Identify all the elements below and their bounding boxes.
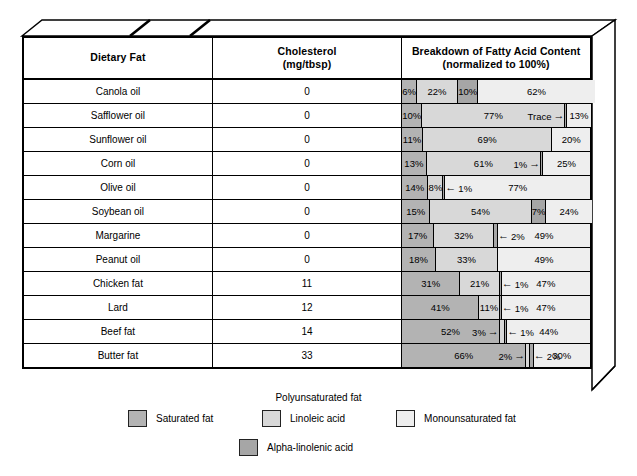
segment-value-label: 77% bbox=[508, 182, 527, 193]
table-row: Safflower oil010%77%Trace→13% bbox=[23, 104, 591, 128]
segment-value-label: 11% bbox=[480, 302, 498, 313]
column-header-dietary-fat: Dietary Fat bbox=[23, 37, 212, 79]
bar-segment-ala: 10% bbox=[458, 80, 478, 103]
fatty-acid-table: Dietary Fat Cholesterol (mg/tbsp) Breakd… bbox=[22, 36, 592, 369]
cell-dietary-fat: Olive oil bbox=[23, 176, 212, 200]
cell-fatty-acid-bar: 17%32%←2%49% bbox=[402, 224, 591, 248]
stacked-bar: 6%22%10%62% bbox=[402, 80, 590, 103]
bar-segment-lin: 77% bbox=[422, 104, 565, 127]
bar-segment-sat: 6% bbox=[402, 80, 417, 103]
bar-segment-sat: 41% bbox=[402, 296, 479, 319]
segment-value-label: 18% bbox=[409, 254, 428, 265]
table-row: Canola oil06%22%10%62% bbox=[23, 79, 591, 104]
cell-dietary-fat: Butter fat bbox=[23, 344, 212, 369]
stacked-bar: 17%32%←2%49% bbox=[402, 224, 590, 247]
cell-cholesterol: 0 bbox=[212, 128, 401, 152]
table-header-row: Dietary Fat Cholesterol (mg/tbsp) Breakd… bbox=[23, 37, 591, 79]
table-row: Butter fat3366%2%→←2%30% bbox=[23, 344, 591, 369]
segment-value-label: 69% bbox=[478, 134, 497, 145]
cell-cholesterol: 14 bbox=[212, 320, 401, 344]
bar-segment-sat: 31% bbox=[402, 272, 460, 295]
cell-cholesterol: 0 bbox=[212, 79, 401, 104]
cell-cholesterol: 33 bbox=[212, 344, 401, 369]
segment-value-label: 77% bbox=[484, 110, 503, 121]
segment-value-label: 44% bbox=[539, 326, 558, 337]
bar-segment-sat: 11% bbox=[402, 128, 423, 151]
table-row: Soybean oil015%54%7%24% bbox=[23, 200, 591, 224]
bar-segment-sat: 14% bbox=[402, 176, 428, 199]
stacked-bar: 11%69%20% bbox=[402, 128, 590, 151]
cell-cholesterol: 0 bbox=[212, 176, 401, 200]
table-row: Olive oil014%8%←1%77% bbox=[23, 176, 591, 200]
table-row: Peanut oil018%33%49% bbox=[23, 248, 591, 272]
stacked-bar: 66%2%→←2%30% bbox=[402, 344, 590, 367]
cell-cholesterol: 0 bbox=[212, 224, 401, 248]
bar-segment-lin: 21% bbox=[460, 272, 499, 295]
cell-fatty-acid-bar: 10%77%Trace→13% bbox=[402, 104, 591, 128]
bar-segment-sat: 13% bbox=[402, 152, 426, 175]
segment-value-label: 61% bbox=[474, 158, 493, 169]
cell-dietary-fat: Soybean oil bbox=[23, 200, 212, 224]
cell-dietary-fat: Beef fat bbox=[23, 320, 212, 344]
cell-fatty-acid-bar: 14%8%←1%77% bbox=[402, 176, 591, 200]
bar-segment-sat: 17% bbox=[402, 224, 434, 247]
segment-value-label: 52% bbox=[441, 326, 460, 337]
breakdown-subtitle: (normalized to 100%) bbox=[402, 58, 590, 71]
cell-dietary-fat: Corn oil bbox=[23, 152, 212, 176]
legend-group-polyunsaturated: Polyunsaturated fat bbox=[0, 392, 637, 403]
breakdown-title: Breakdown of Fatty Acid Content bbox=[402, 45, 590, 58]
cholesterol-units: (mg/tbsp) bbox=[213, 58, 401, 71]
bar-segment-mono: 24% bbox=[546, 200, 591, 223]
segment-value-label: 41% bbox=[431, 302, 450, 313]
cell-fatty-acid-bar: 18%33%49% bbox=[402, 248, 591, 272]
cell-fatty-acid-bar: 66%2%→←2%30% bbox=[402, 344, 591, 369]
segment-value-label: 13% bbox=[404, 158, 423, 169]
stacked-bar: 13%61%1%→25% bbox=[402, 152, 590, 175]
chart-figure: Dietary Fat Cholesterol (mg/tbsp) Breakd… bbox=[0, 0, 637, 476]
column-header-cholesterol: Cholesterol (mg/tbsp) bbox=[212, 37, 401, 79]
segment-value-label: 11% bbox=[403, 134, 421, 145]
cell-dietary-fat: Margarine bbox=[23, 224, 212, 248]
cell-fatty-acid-bar: 52%3%→←1%44% bbox=[402, 320, 591, 344]
segment-value-label: 21% bbox=[470, 278, 489, 289]
column-header-breakdown: Breakdown of Fatty Acid Content (normali… bbox=[402, 37, 591, 79]
segment-value-label: 25% bbox=[557, 158, 576, 169]
cell-fatty-acid-bar: 41%11%←1%47% bbox=[402, 296, 591, 320]
bar-segment-lin: 61% bbox=[427, 152, 542, 175]
segment-value-label: 6% bbox=[402, 86, 416, 97]
table-row: Lard1241%11%←1%47% bbox=[23, 296, 591, 320]
cell-cholesterol: 0 bbox=[212, 200, 401, 224]
bar-segment-mono: 49% bbox=[498, 224, 590, 247]
stacked-bar: 18%33%49% bbox=[402, 248, 590, 271]
table-row: Margarine017%32%←2%49% bbox=[23, 224, 591, 248]
segment-value-label: 30% bbox=[552, 350, 571, 361]
bar-segment-mono: 62% bbox=[478, 80, 594, 103]
bar-segment-lin: 33% bbox=[436, 248, 498, 271]
segment-value-label: 66% bbox=[454, 350, 473, 361]
legend-item-saturated-fat: Saturated fat bbox=[128, 410, 262, 427]
bar-segment-sat: 66% bbox=[402, 344, 526, 367]
bar-segment-mono: 20% bbox=[552, 128, 590, 151]
cell-cholesterol: 12 bbox=[212, 296, 401, 320]
legend-label-alpha-linolenic: Alpha-linolenic acid bbox=[267, 442, 353, 453]
stacked-bar: 14%8%←1%77% bbox=[402, 176, 590, 199]
cell-dietary-fat: Sunflower oil bbox=[23, 128, 212, 152]
cell-fatty-acid-bar: 13%61%1%→25% bbox=[402, 152, 591, 176]
bar-segment-sat: 10% bbox=[402, 104, 422, 127]
legend-row-secondary: Alpha-linolenic acid bbox=[239, 439, 353, 456]
bar-segment-lin: 11% bbox=[479, 296, 500, 319]
segment-value-label: 20% bbox=[562, 134, 581, 145]
cell-dietary-fat: Lard bbox=[23, 296, 212, 320]
legend-row-primary: Saturated fat Linoleic acid Monounsatura… bbox=[128, 410, 548, 427]
segment-value-label: 47% bbox=[536, 302, 555, 313]
cholesterol-label: Cholesterol bbox=[213, 45, 401, 58]
cell-dietary-fat: Safflower oil bbox=[23, 104, 212, 128]
stacked-bar: 41%11%←1%47% bbox=[402, 296, 590, 319]
bar-segment-sat: 18% bbox=[402, 248, 436, 271]
segment-value-label: 22% bbox=[428, 86, 447, 97]
segment-value-label: 49% bbox=[534, 230, 553, 241]
segment-value-label: 31% bbox=[421, 278, 440, 289]
segment-value-label: 7% bbox=[532, 206, 546, 217]
bar-segment-mono: 77% bbox=[445, 176, 590, 199]
bar-segment-mono: 47% bbox=[502, 296, 590, 319]
